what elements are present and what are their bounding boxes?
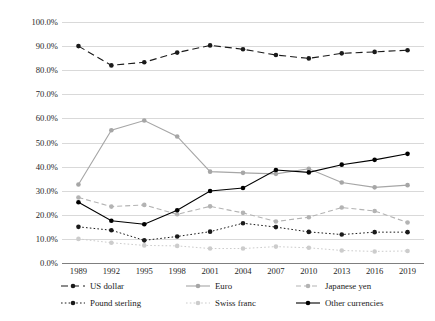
- data-point-marker: [372, 209, 377, 214]
- data-point-marker: [109, 240, 114, 245]
- data-point-marker: [274, 168, 279, 173]
- data-point-marker: [76, 44, 81, 49]
- data-point-marker: [142, 238, 147, 243]
- legend-item-euro[interactable]: Euro: [185, 281, 232, 291]
- data-point-marker: [241, 171, 246, 176]
- x-axis-tick-label: 2016: [366, 266, 383, 276]
- data-point-marker: [307, 246, 312, 251]
- data-point-marker: [142, 60, 147, 65]
- data-point-marker: [76, 195, 81, 200]
- data-point-marker: [109, 228, 114, 233]
- data-point-marker: [175, 208, 180, 213]
- y-axis-tick-label: 10.0%: [0, 234, 58, 244]
- y-axis-tick-label: 90.0%: [0, 41, 58, 51]
- series-line: [78, 121, 407, 188]
- series-us-dollar: [76, 43, 410, 68]
- series-euro: [76, 118, 410, 189]
- legend-key-swatch: [185, 281, 211, 291]
- x-axis-tick-label: 1995: [136, 266, 153, 276]
- data-point-marker: [109, 204, 114, 209]
- data-point-marker: [241, 246, 246, 251]
- data-point-marker: [372, 50, 377, 55]
- x-axis-tick-label: 2013: [333, 266, 350, 276]
- legend-item-label: Japanese yen: [325, 282, 371, 291]
- legend-key-swatch: [295, 281, 321, 291]
- data-point-marker: [372, 249, 377, 254]
- y-axis-tick-label: 70.0%: [0, 89, 58, 99]
- data-point-marker: [76, 237, 81, 242]
- data-point-marker: [372, 185, 377, 190]
- legend-item-other-currencies[interactable]: Other currencies: [295, 298, 383, 308]
- data-point-marker: [175, 244, 180, 249]
- data-point-marker: [339, 205, 344, 210]
- legend-item-us-dollar[interactable]: US dollar: [60, 281, 124, 291]
- data-point-marker: [241, 47, 246, 52]
- legend-item-label: Other currencies: [325, 299, 383, 308]
- data-point-marker: [274, 53, 279, 58]
- x-axis-tick-label: 2004: [234, 266, 251, 276]
- data-point-marker: [208, 43, 213, 48]
- data-point-marker: [208, 189, 213, 194]
- legend-item-label: Euro: [215, 282, 232, 291]
- chart-legend: US dollarEuroJapanese yenPound sterlingS…: [60, 281, 432, 317]
- y-axis-tick-label: 30.0%: [0, 186, 58, 196]
- x-axis-tick-label: 1992: [103, 266, 120, 276]
- y-axis-tick-label: 20.0%: [0, 210, 58, 220]
- data-point-marker: [339, 180, 344, 185]
- legend-item-label: Swiss franc: [215, 299, 256, 308]
- data-point-marker: [307, 215, 312, 220]
- data-point-marker: [405, 183, 410, 188]
- data-point-marker: [307, 230, 312, 235]
- x-axis-tick-label: 1989: [70, 266, 87, 276]
- x-axis-tick-label: 1998: [169, 266, 186, 276]
- x-axis-line: [62, 263, 424, 264]
- data-point-marker: [241, 211, 246, 216]
- data-point-marker: [241, 186, 246, 191]
- data-point-marker: [142, 243, 147, 248]
- data-point-marker: [142, 118, 147, 123]
- series-layer: [62, 22, 424, 263]
- data-point-marker: [142, 203, 147, 208]
- legend-item-japanese-yen[interactable]: Japanese yen: [295, 281, 371, 291]
- y-axis-tick-label: 0.0%: [0, 258, 58, 268]
- data-point-marker: [339, 248, 344, 253]
- data-point-marker: [307, 56, 312, 61]
- legend-item-pound-sterling[interactable]: Pound sterling: [60, 298, 141, 308]
- data-point-marker: [274, 219, 279, 224]
- data-point-marker: [109, 63, 114, 68]
- data-point-marker: [339, 51, 344, 56]
- data-point-marker: [175, 212, 180, 217]
- series-line: [78, 223, 407, 240]
- legend-key-swatch: [60, 281, 86, 291]
- legend-key-swatch: [295, 298, 321, 308]
- data-point-marker: [208, 169, 213, 174]
- y-axis-tick-label: 100.0%: [0, 17, 58, 27]
- data-point-marker: [274, 244, 279, 249]
- series-swiss-franc: [76, 237, 410, 254]
- data-point-marker: [405, 230, 410, 235]
- data-point-marker: [208, 204, 213, 209]
- series-line: [78, 197, 407, 222]
- data-point-marker: [175, 234, 180, 239]
- y-axis-tick-label: 50.0%: [0, 138, 58, 148]
- data-point-marker: [339, 232, 344, 237]
- legend-item-swiss-franc[interactable]: Swiss franc: [185, 298, 256, 308]
- data-point-marker: [76, 200, 81, 205]
- y-axis-tick-label: 80.0%: [0, 65, 58, 75]
- data-point-marker: [175, 134, 180, 139]
- x-axis-tick-label: 2019: [399, 266, 416, 276]
- data-point-marker: [405, 220, 410, 225]
- data-point-marker: [109, 128, 114, 133]
- data-point-marker: [307, 170, 312, 175]
- x-axis-tick-label: 2001: [201, 266, 218, 276]
- data-point-marker: [241, 221, 246, 226]
- data-point-marker: [76, 225, 81, 230]
- data-point-marker: [142, 222, 147, 227]
- legend-key-swatch: [185, 298, 211, 308]
- data-point-marker: [405, 152, 410, 157]
- data-point-marker: [76, 182, 81, 187]
- plot-area: [62, 22, 424, 263]
- series-japanese-yen: [76, 195, 410, 225]
- data-point-marker: [339, 162, 344, 167]
- legend-key-swatch: [60, 298, 86, 308]
